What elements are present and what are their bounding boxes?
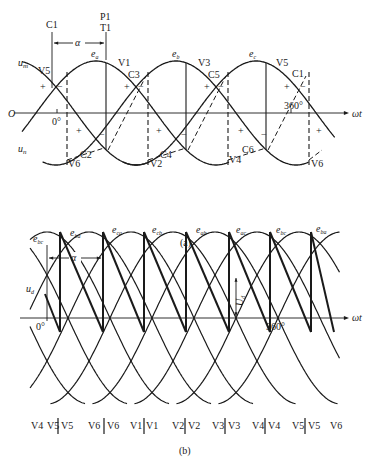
plus-sign: +: [204, 81, 210, 92]
lower-commutation-label: C4: [160, 149, 172, 160]
phase-label-ec: ec: [249, 48, 256, 60]
line-voltage-label-eab: eab: [196, 224, 206, 236]
un-label: un: [18, 143, 27, 156]
upper-thyristor-label: V5: [276, 57, 288, 68]
x-axis-label: ωt: [352, 108, 362, 119]
minus-sign: −: [218, 81, 224, 92]
plus-sign: +: [124, 81, 130, 92]
ud-label: ud: [26, 283, 35, 295]
t1-label: T1: [100, 22, 111, 33]
line-voltage-label-ebc: ebc: [276, 224, 286, 236]
arrowhead-icon: [54, 41, 58, 44]
figure-a-caption: (a): [180, 237, 191, 249]
line-voltage-label-eac: eac: [236, 224, 246, 236]
lower-thyristor-label: V6: [311, 158, 323, 169]
minus-sign: −: [99, 129, 105, 140]
minus-sign: −: [181, 129, 187, 140]
plus-sign: +: [284, 81, 290, 92]
arrowhead-icon: [344, 111, 349, 115]
conduction-thyristor-label: V5: [292, 420, 304, 431]
plus-sign: +: [156, 125, 162, 136]
conduction-thyristor-label: V3: [228, 420, 240, 431]
conduction-thyristor-label: V6: [88, 420, 100, 431]
output-voltage-ud-segment: [186, 232, 229, 332]
conduction-thyristor-label: V3: [212, 420, 224, 431]
c1-label: C1: [46, 19, 58, 30]
um-label: um: [18, 57, 28, 70]
conduction-thyristor-label: V6: [330, 420, 342, 431]
output-voltage-ud-segment: [270, 232, 311, 332]
output-voltage-ud-segment: [60, 232, 103, 332]
plus-sign: +: [76, 125, 82, 136]
phase-label-ea: ea: [91, 48, 98, 60]
tick-0-label: 0°: [36, 321, 45, 332]
arrowhead-icon: [235, 278, 238, 282]
arrowhead-icon: [49, 256, 53, 259]
line-voltage-label-eba: eba: [70, 227, 80, 239]
upper-thyristor-label: V5: [38, 65, 50, 76]
conduction-thyristor-label: V4: [252, 420, 264, 431]
origin-label: O: [8, 108, 15, 119]
conduction-thyristor-label: V6: [107, 420, 119, 431]
alpha-label: α: [75, 37, 81, 48]
line-voltage-label-ecb: ecb: [152, 224, 162, 236]
figure-a-phase-voltage-waveforms: OωtC1P1T1α0°360°umuneaebecV5V1V3V5C3C5C1…: [8, 11, 362, 169]
minus-sign: −: [138, 81, 144, 92]
conduction-thyristor-label: V5: [47, 420, 59, 431]
upper-commutation-label: C1: [292, 68, 304, 79]
upper-commutation-label: C3: [128, 69, 140, 80]
arrowhead-icon: [100, 41, 104, 44]
plus-sign: +: [238, 125, 244, 136]
plus-sign: +: [40, 81, 46, 92]
upper-thyristor-label: V3: [198, 57, 210, 68]
lower-commutation-label: C6: [242, 144, 254, 155]
phase-label-eb: eb: [172, 48, 179, 60]
figure-b-line-voltage-waveforms: ωtαUd0°360°udebcebaecaecbeabeacebcebaV4V…: [20, 223, 362, 434]
minus-sign: −: [300, 81, 306, 92]
tick-360-label: 360°: [284, 100, 303, 111]
conduction-thyristor-label: V1: [146, 420, 158, 431]
conduction-thyristor-label: V4: [268, 420, 280, 431]
plus-sign: +: [316, 125, 322, 136]
conduction-thyristor-label: V2: [188, 420, 200, 431]
minus-sign: −: [57, 81, 63, 92]
conduction-thyristor-label: V1: [130, 420, 142, 431]
minus-sign: −: [261, 129, 267, 140]
lower-commutation-label: C2: [80, 149, 92, 160]
conduction-thyristor-label: V5: [308, 420, 320, 431]
lower-thyristor-label: V4: [229, 154, 241, 165]
lower-thyristor-label: V6: [68, 158, 80, 169]
upper-commutation-label: C5: [208, 69, 220, 80]
three-phase-bridge-waveform-figure: OωtC1P1T1α0°360°umuneaebecV5V1V3V5C3C5C1…: [0, 0, 371, 462]
conduction-thyristor-label: V4: [31, 420, 43, 431]
p1-label: P1: [100, 11, 111, 22]
line-voltage-label-ebc: ebc: [33, 233, 43, 245]
conduction-thyristor-label: V5: [61, 420, 73, 431]
conduction-thyristor-label: V2: [172, 420, 184, 431]
tick-0-label: 0°: [52, 116, 61, 127]
figure-b-caption: (b): [179, 445, 191, 457]
line-voltage-label-eba: eba: [316, 223, 326, 235]
x-axis-label: ωt: [352, 312, 362, 323]
tick-360-label: 360°: [266, 321, 285, 332]
upper-thyristor-label: V1: [118, 57, 130, 68]
line-voltage-label-eca: eca: [112, 224, 122, 236]
line-voltage-curve: [30, 327, 85, 404]
arrowhead-icon: [344, 316, 349, 320]
